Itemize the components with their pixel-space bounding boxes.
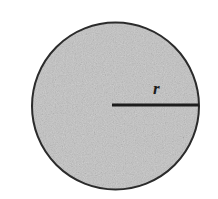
diagram-svg: [0, 0, 218, 199]
shaded-circle: [0, 0, 218, 199]
circle-radius-diagram: r: [0, 0, 218, 199]
radius-label: r: [153, 80, 160, 97]
